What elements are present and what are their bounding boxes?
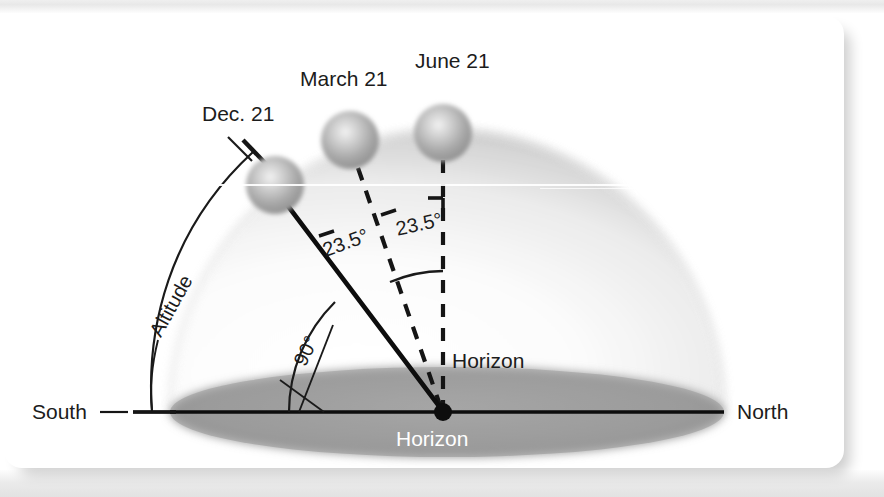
label-horizon-lower: Horizon [396,428,468,449]
scan-artifact [180,184,660,186]
label-june21: June 21 [415,50,490,71]
page-edge-bottom [0,470,884,497]
label-dec21: Dec. 21 [202,103,274,124]
label-north: North [737,401,788,422]
label-horizon-upper: Horizon [452,350,524,371]
label-south: South [32,401,87,422]
figure-root: June 21 March 21 Dec. 21 Altitude 90° 23… [0,0,884,497]
scan-artifact-right [540,188,840,189]
page-edge-top [0,0,884,13]
figure-card [4,16,844,468]
label-march21: March 21 [300,68,388,89]
